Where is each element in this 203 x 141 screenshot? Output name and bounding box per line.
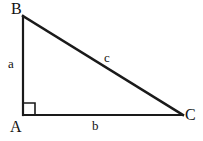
side-label-c: c [104,51,110,64]
side-label-b: b [92,119,99,132]
right-angle-marker-icon [23,103,35,115]
side-c-line [23,16,183,115]
right-triangle-diagram: B A C a b c [0,0,203,141]
triangle-drawing [0,0,203,141]
side-label-a: a [8,57,14,70]
vertex-label-b: B [11,1,22,17]
vertex-label-a: A [10,119,22,135]
vertex-label-c: C [185,107,196,123]
